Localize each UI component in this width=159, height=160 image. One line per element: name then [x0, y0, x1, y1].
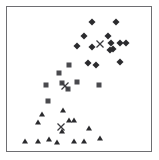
plot-frame	[6, 6, 152, 152]
scatter-plot	[0, 0, 159, 160]
